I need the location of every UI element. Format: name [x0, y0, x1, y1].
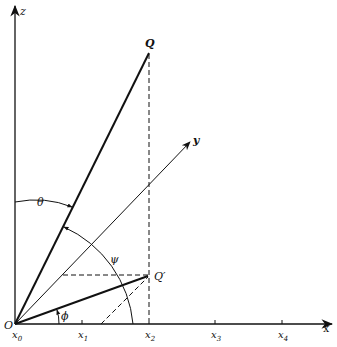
tick-x4-sub: 4	[283, 335, 288, 343]
svg-text:x4: x4	[278, 329, 288, 343]
svg-text:x2: x2	[145, 329, 156, 343]
y-axis	[15, 142, 190, 324]
tick-x1-sub: 1	[84, 335, 88, 343]
y-axis-label: y	[192, 134, 201, 147]
svg-text:x3: x3	[211, 329, 222, 343]
diagram: z y x Q Q′ O θ ψ ϕ x0 x1 x2 x3 x4	[0, 0, 337, 347]
tick-label-x3: x3	[211, 329, 222, 343]
tick-x0-sub: 0	[18, 335, 23, 343]
point-q-prime-label: Q′	[154, 270, 166, 283]
tick-x3-sub: 3	[217, 335, 222, 343]
phi-label: ϕ	[61, 310, 69, 323]
svg-text:x1: x1	[78, 329, 88, 343]
psi-label: ψ	[110, 253, 119, 266]
x-axis-label: x	[323, 322, 330, 335]
point-q-label: Q	[145, 37, 155, 50]
svg-text:x0: x0	[12, 329, 23, 343]
theta-label: θ	[37, 196, 44, 209]
phi-arc	[57, 310, 59, 324]
tick-label-x1: x1	[78, 329, 88, 343]
tick-label-x4: x4	[278, 329, 288, 343]
tick-x2-sub: 2	[150, 335, 156, 343]
tick-label-x0: x0	[12, 329, 23, 343]
tick-label-x2: x2	[145, 329, 156, 343]
z-axis-label: z	[19, 5, 26, 18]
